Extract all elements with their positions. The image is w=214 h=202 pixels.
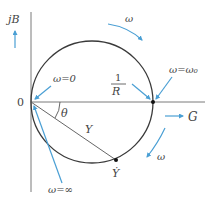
omega-top-label: ω [125, 13, 133, 24]
conductance-numerator: 1 [115, 72, 121, 83]
diagram-canvas: jB G 0 ω=0 ω=ω₀ ω=∞ ω ω 1 R θ Y Ẏ [0, 0, 214, 202]
angle-label: θ [61, 107, 68, 120]
omega-zero-pointer [35, 86, 51, 99]
omega-resonance-pointer [156, 77, 172, 99]
angle-arc [55, 102, 60, 118]
resonance-point [151, 100, 155, 104]
omega-right-label: ω [157, 151, 165, 162]
conductance-denominator: R [111, 85, 120, 98]
omega-infinity-label: ω=∞ [48, 184, 73, 195]
phasor-label: Y [85, 123, 94, 136]
admittance-circle-diagram: jB G 0 ω=0 ω=ω₀ ω=∞ ω ω 1 R θ Y Ẏ [0, 0, 214, 202]
omega-top-arrow [108, 24, 142, 40]
omega-resonance-label: ω=ω₀ [169, 64, 198, 75]
vertical-axis-label: jB [5, 13, 20, 26]
point-label: Ẏ [112, 166, 121, 180]
omega-zero-label: ω=0 [53, 73, 77, 84]
phasor-line [31, 102, 116, 160]
phasor-tip-point [114, 158, 118, 162]
horizontal-axis-label: G [188, 110, 198, 124]
omega-infinity-pointer [34, 106, 62, 183]
inverse-R-pointer [132, 84, 150, 99]
origin-label: 0 [17, 96, 24, 109]
